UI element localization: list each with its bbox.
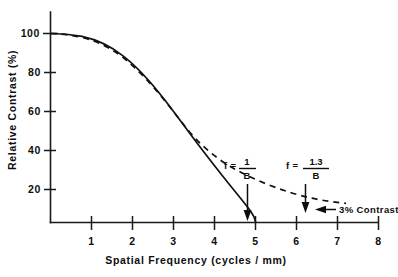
annot1-numerator: 1: [244, 156, 250, 167]
x-tick-label-2: 2: [129, 235, 135, 247]
y-tick-label-80: 80: [28, 66, 41, 78]
annot3-arrow-head-left-icon: [315, 206, 326, 213]
dashed-mtf-curve: [51, 34, 347, 204]
annot1-arrow-head-down-icon: [244, 210, 252, 221]
x-tick-label-6: 6: [293, 235, 299, 247]
x-tick-label-5: 5: [252, 235, 258, 247]
x-axis-tick-labels: 1 2 3 4 5 6 7 8: [88, 235, 381, 247]
x-tick-label-1: 1: [88, 235, 94, 247]
x-axis-title: Spatial Frequency (cycles / mm): [105, 254, 287, 266]
x-tick-label-8: 8: [375, 235, 381, 247]
annot2-prefix: f =: [286, 160, 299, 171]
annot2-numerator: 1.3: [309, 156, 322, 167]
annotation-3-percent-contrast: 3% Contrast: [315, 204, 398, 215]
annot3-label: 3% Contrast: [339, 204, 398, 215]
y-tick-label-40: 40: [28, 144, 41, 156]
chart-figure: 100 80 60 40 20 Relative Contrast (%) 1 …: [0, 0, 398, 277]
y-tick-label-100: 100: [21, 27, 40, 39]
y-axis-tick-labels: 100 80 60 40 20: [21, 27, 41, 195]
y-tick-label-60: 60: [28, 105, 41, 117]
axes-group: [51, 12, 379, 223]
annot2-arrow-head-down-icon: [302, 202, 310, 213]
y-axis-title: Relative Contrast (%): [6, 50, 18, 170]
annotation-f-1p3-over-b: f = 1.3 B: [286, 156, 329, 213]
solid-mtf-curve: [51, 34, 256, 222]
annot1-prefix: f =: [224, 160, 237, 171]
x-tick-label-4: 4: [211, 235, 217, 247]
x-tick-label-3: 3: [170, 235, 176, 247]
annot1-denominator: B: [244, 170, 251, 181]
x-tick-label-7: 7: [334, 235, 340, 247]
mtf-chart-svg: 100 80 60 40 20 Relative Contrast (%) 1 …: [0, 0, 398, 277]
y-tick-label-20: 20: [28, 183, 41, 195]
annot2-denominator: B: [313, 170, 320, 181]
